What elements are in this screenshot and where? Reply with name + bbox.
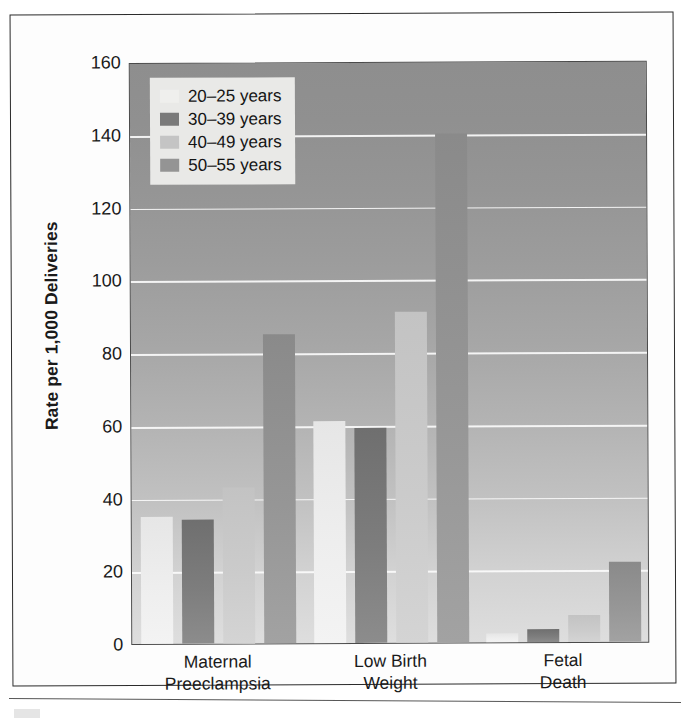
y-axis-tick-labels: 160140120100806040200 <box>73 63 124 645</box>
y-tick-label: 120 <box>91 198 121 219</box>
bar <box>609 562 641 642</box>
chart-legend: 20–25 years30–39 years40–49 years50–55 y… <box>150 77 295 185</box>
legend-item: 40–49 years <box>160 130 282 154</box>
legend-item-label: 40–49 years <box>188 133 282 150</box>
legend-swatch-icon <box>160 113 179 126</box>
bar <box>527 629 559 642</box>
legend-swatch-icon <box>160 90 179 103</box>
legend-item: 50–55 years <box>160 153 282 177</box>
plot-area: 20–25 years30–39 years40–49 years50–55 y… <box>129 61 650 645</box>
bar <box>394 312 427 643</box>
bar <box>486 633 518 642</box>
legend-swatch-icon <box>160 159 179 172</box>
x-category-label: Low Birth Weight <box>354 650 427 695</box>
bar <box>435 133 469 642</box>
y-tick-label: 100 <box>92 271 122 292</box>
y-tick-label: 40 <box>103 489 123 510</box>
figure-frame: Rate per 1,000 Deliveries 16014012010080… <box>10 12 677 687</box>
legend-item-label: 30–39 years <box>188 110 282 127</box>
y-tick-label: 140 <box>91 125 121 146</box>
legend-item-label: 20–25 years <box>188 87 282 104</box>
bar <box>354 428 387 643</box>
legend-item: 20–25 years <box>160 84 282 108</box>
legend-item-label: 50–55 years <box>188 156 282 173</box>
bar <box>263 334 296 643</box>
y-tick-label: 0 <box>113 634 123 655</box>
bar <box>141 516 174 643</box>
y-axis-title: Rate per 1,000 Deliveries <box>41 176 63 476</box>
legend-item: 30–39 years <box>160 107 282 131</box>
bar <box>313 421 346 643</box>
y-tick-label: 20 <box>103 562 123 583</box>
x-category-label: Fetal Death <box>520 649 607 694</box>
page-corner-smudge <box>14 709 40 718</box>
legend-swatch-icon <box>160 136 179 149</box>
x-category-label: Maternal Preeclampsia <box>165 650 271 695</box>
bar <box>222 487 255 644</box>
bar <box>182 520 215 644</box>
y-tick-label: 60 <box>102 416 122 437</box>
y-tick-label: 160 <box>91 52 121 73</box>
y-tick-label: 80 <box>102 343 122 364</box>
bar <box>568 615 600 642</box>
